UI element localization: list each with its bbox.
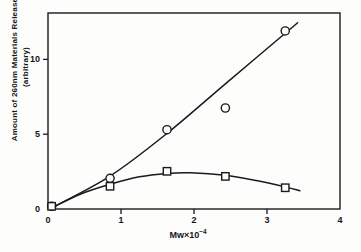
x-tick-label: 2 [186, 215, 202, 225]
x-tick-label: 4 [332, 215, 348, 225]
x-tick-label: 0 [40, 215, 56, 225]
data-point-square [163, 168, 170, 175]
chart-figure-root: Amount of 260nm Materials Released (arbi… [0, 0, 361, 252]
data-point-circle [281, 27, 289, 35]
data-point-square [106, 183, 113, 190]
x-axis-title-exponent: −4 [199, 228, 206, 235]
series-fit-lines [51, 23, 300, 209]
series-data-markers [48, 27, 290, 211]
x-tick-label: 3 [259, 215, 275, 225]
x-axis-title-base: Mw×10 [169, 230, 199, 240]
y-axis-title-line2: (arbitrary) [20, 0, 31, 147]
y-axis-ticks [43, 59, 48, 134]
data-point-square [282, 184, 289, 191]
data-point-square [222, 173, 229, 180]
y-axis-title-line1: Amount of 260nm Materials Released [10, 0, 19, 141]
data-point-square [48, 203, 55, 210]
y-tick-label: 0 [24, 204, 40, 214]
data-point-circle [163, 126, 171, 134]
x-axis-ticks [121, 209, 267, 214]
x-tick-label: 1 [113, 215, 129, 225]
y-axis-title: Amount of 260nm Materials Released (arbi… [9, 0, 31, 147]
x-axis-title: Mw×10−4 [118, 228, 258, 240]
data-point-circle [221, 104, 229, 112]
y-tick-label: 5 [24, 129, 40, 139]
data-point-circle [106, 174, 114, 182]
y-tick-label: 10 [24, 54, 40, 64]
